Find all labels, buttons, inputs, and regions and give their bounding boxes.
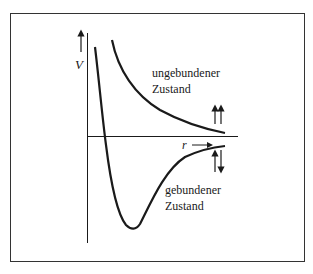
figure-frame (11, 14, 305, 262)
bound-label-line1: gebundener (165, 183, 221, 197)
bound-label-line2: Zustand (165, 199, 204, 213)
potential-diagram: V ungebundener Zustand r gebundener Zust… (0, 0, 313, 274)
unbound-label-line2: Zustand (152, 82, 191, 96)
y-axis-label: V (75, 57, 85, 72)
unbound-label-line1: ungebundener (152, 66, 220, 80)
x-axis-label: r (182, 138, 187, 152)
